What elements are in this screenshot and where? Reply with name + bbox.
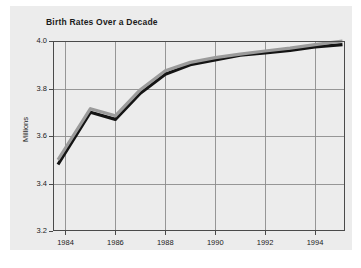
series-line-birth-rate-black	[58, 45, 343, 165]
axis-ticks	[49, 42, 316, 236]
x-tick-label: 1986	[95, 238, 135, 247]
series-layer	[58, 41, 343, 165]
y-tick-label: 3.8	[17, 84, 47, 93]
y-tick-label: 3.4	[17, 179, 47, 188]
series-line-birth-rate-gray	[58, 41, 343, 160]
x-tick-label: 1994	[295, 238, 335, 247]
chart-figure: Birth Rates Over a Decade Millions 3.23.…	[0, 0, 361, 268]
y-tick-label: 4.0	[17, 36, 47, 45]
gridlines	[53, 41, 345, 231]
x-tick-label: 1990	[195, 238, 235, 247]
plot-area	[0, 0, 361, 268]
y-tick-label: 3.2	[17, 226, 47, 235]
y-tick-label: 3.6	[17, 131, 47, 140]
x-tick-label: 1992	[245, 238, 285, 247]
plot-frame	[54, 42, 345, 231]
x-tick-label: 1988	[145, 238, 185, 247]
x-tick-label: 1984	[45, 238, 85, 247]
